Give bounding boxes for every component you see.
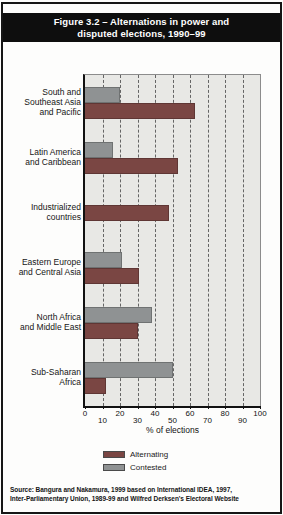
category-label: Sub-Saharan Africa xyxy=(4,350,81,405)
tick-label: 80 xyxy=(221,409,230,418)
bar-contested xyxy=(85,252,122,268)
bar-group xyxy=(85,75,260,130)
legend: AlternatingContested xyxy=(103,450,168,476)
figure-page: Figure 3.2 – Alternations in power and d… xyxy=(0,0,283,515)
bar-alternating xyxy=(85,103,195,119)
bar-alternating xyxy=(85,268,139,284)
figure-title-line1: Figure 3.2 – Alternations in power and xyxy=(3,16,280,28)
category-label: Industrialized countries xyxy=(4,184,81,239)
tick-mark xyxy=(103,406,104,409)
legend-label: Alternating xyxy=(130,450,168,459)
plot-area xyxy=(83,74,261,408)
tick-mark xyxy=(208,406,209,409)
contested-swatch xyxy=(103,464,125,471)
figure-title-line2: disputed elections, 1990–99 xyxy=(3,28,280,40)
tick-mark xyxy=(243,406,244,409)
bar-group xyxy=(85,296,260,351)
bar-alternating xyxy=(85,378,106,394)
tick-label: 50 xyxy=(168,416,177,425)
tick-label: 30 xyxy=(133,416,142,425)
bar-alternating xyxy=(85,205,169,221)
legend-item: Contested xyxy=(103,463,168,472)
tick-label: 0 xyxy=(83,409,87,418)
category-labels: South and Southeast Asia and PacificLati… xyxy=(4,74,81,405)
bar-group xyxy=(85,185,260,240)
x-axis-title: % of elections xyxy=(85,425,260,435)
tick-label: 10 xyxy=(98,416,107,425)
tick-label: 20 xyxy=(116,409,125,418)
tick-mark xyxy=(138,406,139,409)
bar-contested xyxy=(85,142,113,158)
category-label: Latin America and Caribbean xyxy=(4,129,81,184)
tick-label: 60 xyxy=(186,409,195,418)
bar-group xyxy=(85,130,260,185)
tick-mark xyxy=(173,406,174,409)
bar-group xyxy=(85,241,260,296)
legend-label: Contested xyxy=(130,463,166,472)
category-label: Eastern Europe and Central Asia xyxy=(4,240,81,295)
bar-contested xyxy=(85,87,120,103)
bar-alternating xyxy=(85,158,178,174)
alternating-swatch xyxy=(103,451,125,458)
bar-group xyxy=(85,351,260,406)
tick-label: 100 xyxy=(253,409,266,418)
source-line1: Source: Bangura and Nakamura, 1999 based… xyxy=(10,486,278,495)
bar-alternating xyxy=(85,323,138,339)
source-line2: Inter-Parliamentary Union, 1989-99 and W… xyxy=(10,495,278,504)
bar-contested xyxy=(85,307,152,323)
category-label: South and Southeast Asia and Pacific xyxy=(4,74,81,129)
tick-label: 40 xyxy=(151,409,160,418)
figure-title-band: Figure 3.2 – Alternations in power and d… xyxy=(3,13,280,42)
x-axis-ticks: 0102030405060708090100 xyxy=(85,406,260,426)
category-label: North Africa and Middle East xyxy=(4,295,81,350)
tick-label: 70 xyxy=(203,416,212,425)
tick-label: 90 xyxy=(238,416,247,425)
bar-contested xyxy=(85,362,173,378)
source-note: Source: Bangura and Nakamura, 1999 based… xyxy=(10,486,278,503)
legend-item: Alternating xyxy=(103,450,168,459)
